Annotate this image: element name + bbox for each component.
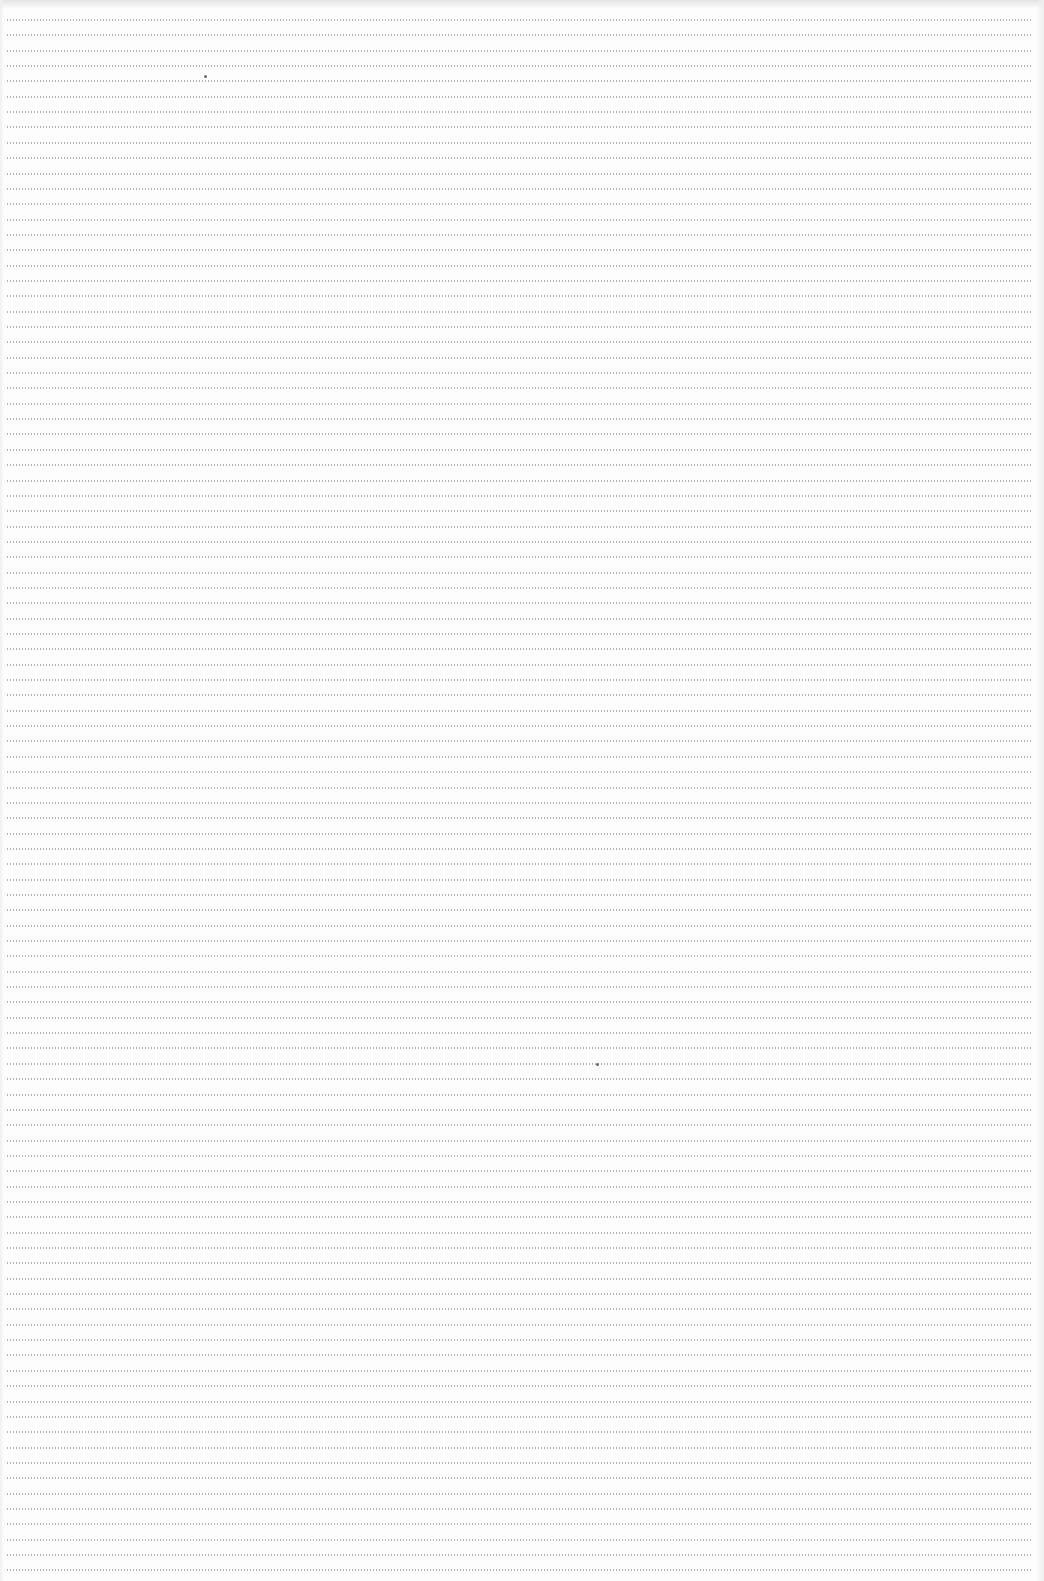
dotted-rule-line [6,1216,1032,1218]
dotted-rule-line [6,295,1032,297]
dotted-rule-line [6,1201,1032,1203]
dotted-rule-line [6,894,1032,896]
dotted-rule-line [6,1017,1032,1019]
dotted-rule-line [6,1370,1032,1372]
dotted-rule-line [6,157,1032,159]
dotted-rule-line [6,556,1032,558]
dotted-rule-line [6,433,1032,435]
dotted-rule-line [6,403,1032,405]
dotted-rule-line [6,1416,1032,1418]
dotted-rule-line [6,679,1032,681]
dotted-rule-line [6,1124,1032,1126]
dotted-rule-line [6,1431,1032,1433]
scan-edge-top [0,0,1044,8]
dotted-rule-line [6,142,1032,144]
dotted-rule-line [6,1155,1032,1157]
dotted-rule-line [6,265,1032,267]
dotted-rule-line [6,802,1032,804]
dotted-rule-line [6,1170,1032,1172]
dotted-rule-line [6,879,1032,881]
dotted-rule-line [6,1001,1032,1003]
dotted-rule-line [6,219,1032,221]
dotted-rule-line [6,1324,1032,1326]
dotted-rule-line [6,80,1032,82]
dotted-rule-line [6,1047,1032,1049]
dotted-rule-line [6,694,1032,696]
dotted-rule-line [6,541,1032,543]
dotted-rule-line [6,280,1032,282]
dotted-rule-line [6,464,1032,466]
dotted-rule-line [6,1462,1032,1464]
dotted-rule-line [6,787,1032,789]
dotted-rule-line [6,96,1032,98]
dotted-rule-line [6,1539,1032,1541]
dotted-rule-line [6,19,1032,21]
dotted-rule-line [6,863,1032,865]
dotted-rule-line [6,510,1032,512]
dotted-rule-line [6,357,1032,359]
scan-edge-right [1036,0,1044,1581]
dotted-rule-line [6,648,1032,650]
paper-speck [596,1063,599,1066]
dotted-rule-line [6,1477,1032,1479]
dotted-rule-line [6,234,1032,236]
dotted-rule-line [6,1109,1032,1111]
dotted-rule-line [6,34,1032,36]
dotted-rule-line [6,1308,1032,1310]
dotted-rule-line [6,925,1032,927]
dotted-rule-line [6,633,1032,635]
dotted-rule-line [6,418,1032,420]
dotted-rule-line [6,971,1032,973]
dotted-rule-line [6,602,1032,604]
dotted-rule-line [6,1063,1032,1065]
dotted-rule-line [6,771,1032,773]
dotted-rule-line [6,50,1032,52]
dotted-rule-line [6,1401,1032,1403]
dotted-rule-line [6,1032,1032,1034]
dotted-rule-line [6,955,1032,957]
dotted-rule-line [6,1447,1032,1449]
dotted-rule-line [6,1339,1032,1341]
dotted-rule-line [6,710,1032,712]
dotted-rule-line [6,1354,1032,1356]
dotted-rule-line [6,111,1032,113]
dotted-rule-line [6,203,1032,205]
dotted-rule-line [6,249,1032,251]
dotted-rule-line [6,480,1032,482]
dotted-rule-line [6,1232,1032,1234]
dotted-rule-line [6,756,1032,758]
dotted-rule-line [6,1278,1032,1280]
dotted-rule-line [6,1569,1032,1571]
dotted-rule-line [6,65,1032,67]
dotted-rule-line [6,526,1032,528]
dotted-rule-line [6,1186,1032,1188]
ruled-paper-page [0,0,1044,1581]
dotted-rule-line [6,1247,1032,1249]
dotted-rule-line [6,740,1032,742]
dotted-rule-line [6,1554,1032,1556]
dotted-rule-line [6,817,1032,819]
dotted-rule-line [6,1094,1032,1096]
dotted-rule-line [6,1385,1032,1387]
dotted-rule-line [6,387,1032,389]
dotted-rule-line [6,572,1032,574]
dotted-rule-line [6,1140,1032,1142]
dotted-rule-line [6,664,1032,666]
dotted-rule-line [6,909,1032,911]
dotted-rule-line [6,495,1032,497]
dotted-rule-line [6,1293,1032,1295]
dotted-rule-line [6,618,1032,620]
scan-edge-left [0,0,4,1581]
dotted-rule-line [6,326,1032,328]
dotted-rule-line [6,1508,1032,1510]
dotted-rule-line [6,1078,1032,1080]
dotted-rule-line [6,173,1032,175]
dotted-rule-line [6,1493,1032,1495]
dotted-rule-line [6,1262,1032,1264]
dotted-rule-line [6,587,1032,589]
dotted-rule-line [6,311,1032,313]
dotted-rule-line [6,126,1032,128]
dotted-rule-line [6,372,1032,374]
dotted-rule-line [6,848,1032,850]
dotted-rule-line [6,833,1032,835]
